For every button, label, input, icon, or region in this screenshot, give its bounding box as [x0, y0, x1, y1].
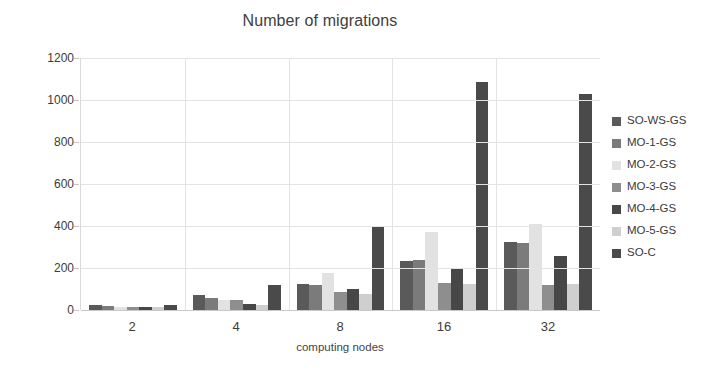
y-axis-tick-mark [74, 268, 79, 269]
gridline [81, 142, 600, 143]
bar[interactable] [359, 294, 372, 310]
bar[interactable] [438, 283, 451, 310]
bar[interactable] [322, 273, 335, 310]
gridline [81, 268, 600, 269]
y-axis-tick-label: 200 [6, 261, 74, 275]
legend-item[interactable]: MO-5-GS [612, 220, 686, 242]
legend-item-label: MO-4-GS [627, 203, 676, 215]
legend-swatch-icon [612, 227, 621, 236]
legend-item[interactable]: MO-3-GS [612, 176, 686, 198]
x-axis-tick-label: 32 [496, 310, 600, 336]
chart-legend: SO-WS-GSMO-1-GSMO-2-GSMO-3-GSMO-4-GSMO-5… [612, 110, 686, 264]
category-separator [289, 58, 290, 310]
legend-swatch-icon [612, 117, 621, 126]
legend-item-label: SO-WS-GS [627, 115, 686, 127]
legend-item-label: MO-2-GS [627, 159, 676, 171]
bar[interactable] [517, 243, 530, 310]
y-axis-tick-mark [74, 100, 79, 101]
x-axis-tick-label: 16 [392, 310, 496, 336]
legend-item[interactable]: MO-4-GS [612, 198, 686, 220]
bar[interactable] [193, 295, 206, 310]
y-axis-tick-mark [74, 58, 79, 59]
bar[interactable] [567, 284, 580, 310]
legend-swatch-icon [612, 139, 621, 148]
legend-item-label: SO-C [627, 247, 656, 259]
bar[interactable] [334, 292, 347, 310]
bar[interactable] [476, 82, 489, 310]
y-axis-tick-label: 800 [6, 135, 74, 149]
x-axis-ticks: 2481632 [80, 310, 600, 336]
y-axis-tick-label: 1000 [6, 93, 74, 107]
legend-swatch-icon [612, 183, 621, 192]
legend-item[interactable]: SO-WS-GS [612, 110, 686, 132]
bar[interactable] [309, 285, 322, 310]
bar[interactable] [451, 268, 464, 310]
bar-chart: Number of migrations 1200100080060040020… [0, 0, 725, 380]
y-axis-tick-label: 1200 [6, 51, 74, 65]
bar[interactable] [579, 94, 592, 310]
category-separator [496, 58, 497, 310]
bar[interactable] [425, 232, 438, 310]
chart-title: Number of migrations [0, 12, 640, 30]
gridline [81, 100, 600, 101]
bar[interactable] [463, 284, 476, 310]
gridline [81, 58, 600, 59]
bar[interactable] [297, 284, 310, 310]
legend-swatch-icon [612, 205, 621, 214]
y-axis-tick-mark [74, 310, 79, 311]
x-axis-tick-label: 8 [288, 310, 392, 336]
bar[interactable] [504, 242, 517, 310]
legend-item-label: MO-3-GS [627, 181, 676, 193]
y-axis-tick-mark [74, 184, 79, 185]
x-axis-tick-label: 2 [80, 310, 184, 336]
y-axis-tick-label: 0 [6, 303, 74, 317]
bar[interactable] [347, 289, 360, 310]
legend-swatch-icon [612, 161, 621, 170]
y-axis-tick-label: 600 [6, 177, 74, 191]
plot-area [80, 58, 600, 310]
x-axis-tick-label: 4 [184, 310, 288, 336]
bar[interactable] [230, 300, 243, 311]
category-separator [185, 58, 186, 310]
legend-item[interactable]: MO-2-GS [612, 154, 686, 176]
bar[interactable] [218, 300, 231, 310]
bar[interactable] [529, 224, 542, 310]
y-axis: 120010008006004002000 [0, 58, 74, 310]
bar[interactable] [542, 285, 555, 310]
bar[interactable] [268, 285, 281, 310]
y-axis-tick-label: 400 [6, 219, 74, 233]
legend-item[interactable]: SO-C [612, 242, 686, 264]
y-axis-tick-mark [74, 226, 79, 227]
legend-swatch-icon [612, 249, 621, 258]
legend-item[interactable]: MO-1-GS [612, 132, 686, 154]
category-separator [392, 58, 393, 310]
gridline [81, 226, 600, 227]
legend-item-label: MO-5-GS [627, 225, 676, 237]
x-axis-title: computing nodes [80, 341, 600, 353]
y-axis-tick-mark [74, 142, 79, 143]
gridline [81, 184, 600, 185]
bar[interactable] [554, 256, 567, 310]
legend-item-label: MO-1-GS [627, 137, 676, 149]
bar[interactable] [205, 298, 218, 310]
